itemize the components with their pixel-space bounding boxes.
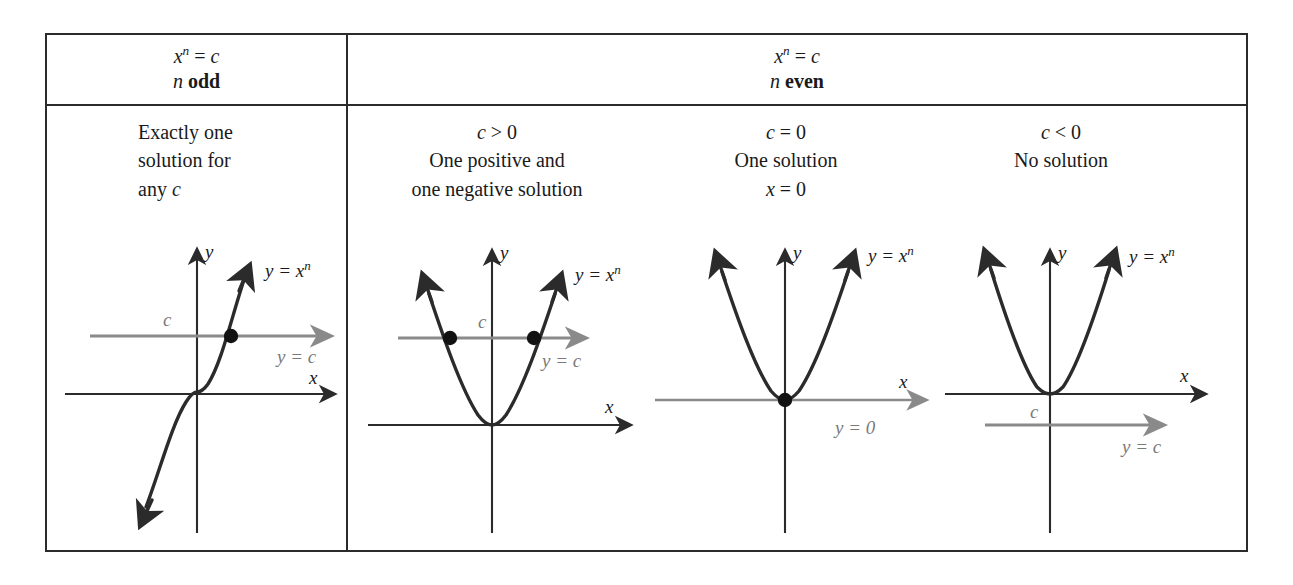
header-even-condition: n even bbox=[770, 69, 824, 94]
caption-line: Exactly one bbox=[138, 118, 233, 146]
caption-line: one negative solution bbox=[356, 175, 638, 203]
caption-odd-any-c: Exactly one solution for any c bbox=[138, 118, 233, 203]
header-cell-even: xn = c n even bbox=[348, 33, 1246, 104]
caption-even-c-negative: c < 0 No solution bbox=[925, 118, 1197, 175]
caption-line: c < 0 bbox=[925, 118, 1197, 146]
solutions-table-figure: xn = c n odd xn = c n even Exactly one s… bbox=[0, 0, 1293, 585]
caption-line: c = 0 bbox=[650, 118, 922, 146]
caption-line: One positive and bbox=[356, 146, 638, 174]
header-even-equation: xn = c bbox=[774, 43, 820, 68]
header-odd-condition: n odd bbox=[173, 69, 220, 94]
caption-line: One solution bbox=[650, 146, 922, 174]
table-outer-border bbox=[45, 33, 1248, 552]
caption-line: c > 0 bbox=[356, 118, 638, 146]
caption-line: x = 0 bbox=[650, 175, 922, 203]
header-odd-equation: xn = c bbox=[174, 43, 220, 68]
caption-even-c-zero: c = 0 One solution x = 0 bbox=[650, 118, 922, 203]
caption-line: solution for bbox=[138, 146, 233, 174]
column-separator-rule bbox=[346, 33, 348, 552]
caption-line: any c bbox=[138, 175, 233, 203]
header-cell-odd: xn = c n odd bbox=[47, 33, 346, 104]
header-separator-rule bbox=[45, 104, 1248, 106]
caption-even-c-positive: c > 0 One positive and one negative solu… bbox=[356, 118, 638, 203]
caption-line: No solution bbox=[925, 146, 1197, 174]
